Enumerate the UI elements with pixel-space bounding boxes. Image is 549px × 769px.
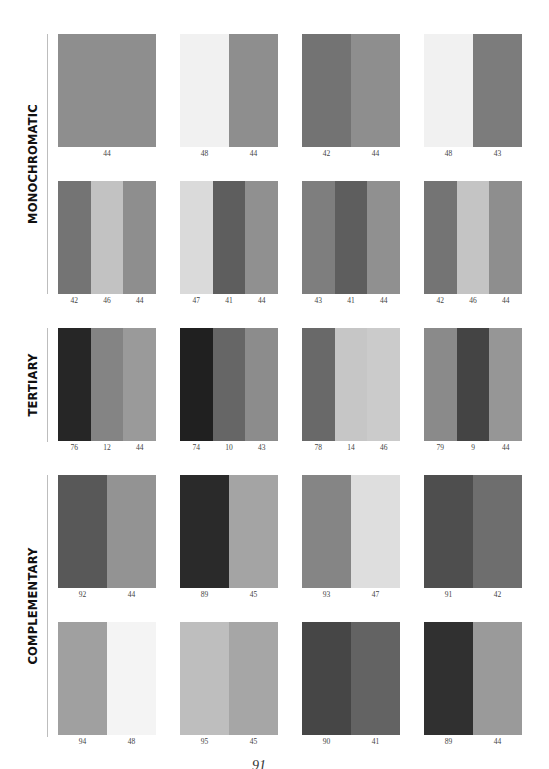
color-bar [335, 181, 368, 294]
color-swatch: 9545 [180, 622, 278, 746]
color-bar [123, 328, 156, 441]
color-bar [424, 181, 457, 294]
swatch-bars [58, 328, 156, 441]
color-code-label: 76 [58, 443, 91, 452]
color-code-label: 44 [107, 590, 156, 599]
color-code-label: 44 [489, 296, 522, 305]
swatch-bars [58, 181, 156, 294]
swatch-labels: 741043 [180, 443, 278, 452]
swatch-bars [302, 34, 400, 147]
color-code-label: 14 [335, 443, 368, 452]
swatch-bars [302, 181, 400, 294]
color-code-label: 46 [91, 296, 124, 305]
color-bar [473, 34, 522, 147]
color-code-label: 43 [245, 443, 278, 452]
color-bar [302, 34, 351, 147]
section-title: COMPLEMENTARY [26, 547, 40, 664]
color-bar [180, 181, 213, 294]
color-code-label: 48 [180, 149, 229, 158]
swatch-bars [58, 622, 156, 735]
color-code-label: 10 [213, 443, 246, 452]
color-bar [351, 34, 400, 147]
color-bar [424, 475, 473, 588]
color-bar [489, 328, 522, 441]
color-bar [229, 622, 278, 735]
color-code-label: 44 [229, 149, 278, 158]
color-swatch: 424644 [58, 181, 156, 305]
swatch-bars [180, 181, 278, 294]
color-swatch: 9142 [424, 475, 522, 599]
color-swatch: 8945 [180, 475, 278, 599]
color-bar [335, 328, 368, 441]
swatch-labels: 761244 [58, 443, 156, 452]
color-code-label: 46 [457, 296, 490, 305]
color-swatch: 741043 [180, 328, 278, 452]
swatch-bars [58, 475, 156, 588]
color-swatch: 4843 [424, 34, 522, 158]
color-bar [107, 475, 156, 588]
swatch-bars [424, 34, 522, 147]
color-bar [424, 34, 473, 147]
swatch-labels: 79944 [424, 443, 522, 452]
swatch-labels: 9041 [302, 737, 400, 746]
color-bar [302, 622, 351, 735]
color-code-label: 47 [351, 590, 400, 599]
color-bar [58, 34, 156, 147]
color-code-label: 89 [180, 590, 229, 599]
color-code-label: 46 [367, 443, 400, 452]
color-swatch: 9347 [302, 475, 400, 599]
swatch-bars [180, 328, 278, 441]
color-code-label: 89 [424, 737, 473, 746]
color-bar [302, 328, 335, 441]
color-swatch: 424644 [424, 181, 522, 305]
color-bar [58, 181, 91, 294]
color-code-label: 9 [457, 443, 490, 452]
color-code-label: 79 [424, 443, 457, 452]
color-bar [457, 328, 490, 441]
color-code-label: 44 [245, 296, 278, 305]
color-code-label: 44 [489, 443, 522, 452]
swatch-labels: 9347 [302, 590, 400, 599]
color-code-label: 12 [91, 443, 124, 452]
swatch-labels: 4843 [424, 149, 522, 158]
color-bar [180, 475, 229, 588]
complementary-label: COMPLEMENTARY [18, 475, 48, 737]
swatch-labels: 9244 [58, 590, 156, 599]
color-code-label: 42 [302, 149, 351, 158]
color-code-label: 47 [180, 296, 213, 305]
color-bar [107, 622, 156, 735]
swatch-labels: 4244 [302, 149, 400, 158]
color-code-label: 78 [302, 443, 335, 452]
color-bar [424, 328, 457, 441]
color-code-label: 44 [123, 443, 156, 452]
section-title: TERTIARY [26, 353, 40, 416]
swatch-labels: 424644 [58, 296, 156, 305]
swatch-bars [424, 622, 522, 735]
color-bar [245, 328, 278, 441]
color-code-label: 95 [180, 737, 229, 746]
color-code-label: 44 [351, 149, 400, 158]
swatch-labels: 8945 [180, 590, 278, 599]
color-bar [229, 34, 278, 147]
swatch-bars [58, 34, 156, 147]
color-bar [123, 181, 156, 294]
color-swatch: 474144 [180, 181, 278, 305]
color-code-label: 48 [424, 149, 473, 158]
swatch-bars [424, 328, 522, 441]
color-code-label: 48 [107, 737, 156, 746]
swatch-bars [302, 622, 400, 735]
color-code-label: 44 [473, 737, 522, 746]
color-code-label: 44 [123, 296, 156, 305]
color-swatch: 9448 [58, 622, 156, 746]
color-bar [180, 328, 213, 441]
color-bar [367, 328, 400, 441]
swatch-labels: 434144 [302, 296, 400, 305]
color-swatch: 781446 [302, 328, 400, 452]
color-bar [58, 328, 91, 441]
color-bar [473, 622, 522, 735]
swatch-labels: 8944 [424, 737, 522, 746]
color-code-label: 41 [351, 737, 400, 746]
color-code-label: 94 [58, 737, 107, 746]
swatch-bars [180, 622, 278, 735]
color-bar [367, 181, 400, 294]
